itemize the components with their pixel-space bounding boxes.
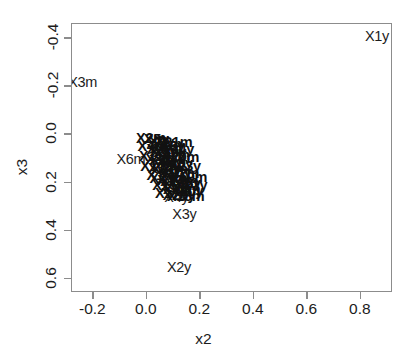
- x-axis-title: x2: [0, 330, 407, 348]
- data-point-label: X2y: [167, 259, 191, 274]
- plot-frame: X1yX3mX2yX3yX4yX6mX2mX5yX7yX1mX8yX4mX9yX…: [71, 23, 392, 292]
- y-axis-tick-label: 0.2: [42, 171, 60, 193]
- y-axis-tick: [64, 182, 71, 183]
- y-axis-tick: [64, 85, 71, 86]
- y-axis-tick: [64, 230, 71, 231]
- x-axis-tick-label: 0.4: [242, 300, 264, 318]
- y-axis-tick-label: -0.4: [44, 24, 62, 51]
- x-axis-tick: [199, 292, 200, 299]
- plot-area: X1yX3mX2yX3yX4yX6mX2mX5yX7yX1mX8yX4mX9yX…: [72, 24, 391, 291]
- x-axis-tick-label: 0.2: [189, 300, 211, 318]
- y-axis-tick-label: 0.4: [42, 219, 60, 241]
- x-axis-tick-label: 0.0: [135, 300, 157, 318]
- y-axis-tick-label: 0.6: [42, 267, 60, 289]
- x-axis-tick-label: -0.2: [79, 300, 106, 318]
- y-axis-tick: [64, 278, 71, 279]
- data-point-label: X3m: [72, 74, 97, 89]
- x-axis-tick: [253, 292, 254, 299]
- y-axis-tick: [64, 133, 71, 134]
- scatter-plot: X1yX3mX2yX3yX4yX6mX2mX5yX7yX1mX8yX4mX9yX…: [0, 0, 407, 361]
- x-axis-tick: [92, 292, 93, 299]
- x-axis-tick: [146, 292, 147, 299]
- x-axis-tick-label: 0.8: [349, 300, 371, 318]
- data-point-label: X3y: [172, 206, 196, 221]
- data-point-label: X1y: [365, 29, 389, 44]
- x-axis-tick-label: 0.6: [296, 300, 318, 318]
- y-axis-tick-label: -0.2: [44, 72, 62, 99]
- y-axis-title: x3: [13, 159, 31, 175]
- x-axis-tick: [306, 292, 307, 299]
- y-axis-tick-label: 0.0: [42, 123, 60, 145]
- x-axis-tick: [360, 292, 361, 299]
- y-axis-tick: [64, 37, 71, 38]
- data-point-label: X21m: [155, 134, 193, 149]
